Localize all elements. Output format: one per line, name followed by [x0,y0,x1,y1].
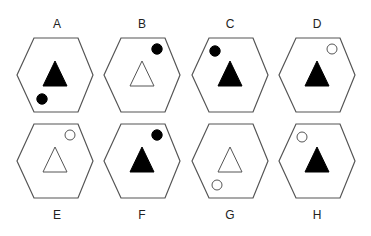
option-label: E [47,208,67,222]
option-b [104,38,180,112]
option-label: D [307,17,327,31]
filled-triangle-icon [305,61,329,86]
filled-circle-icon [152,130,162,140]
option-g [192,124,268,198]
option-e [17,124,93,198]
option-h [279,124,355,198]
filled-circle-icon [210,46,220,56]
option-label: F [132,208,152,222]
outline-circle-icon [327,44,337,54]
filled-circle-icon [37,94,47,104]
filled-circle-icon [152,44,162,54]
filled-triangle-icon [43,61,67,86]
outline-circle-icon [65,130,75,140]
outline-triangle-icon [130,61,154,86]
outline-circle-icon [297,132,307,142]
hexagon-options-figure [0,0,371,236]
option-label: G [220,208,240,222]
option-label: A [47,17,67,31]
filled-triangle-icon [305,147,329,172]
option-f [104,124,180,198]
outline-triangle-icon [43,147,67,172]
outline-triangle-icon [218,147,242,172]
option-d [279,38,355,112]
option-label: B [132,17,152,31]
option-label: C [220,17,240,31]
filled-triangle-icon [218,61,242,86]
filled-triangle-icon [130,147,154,172]
option-a [17,38,93,112]
option-label: H [307,208,327,222]
outline-circle-icon [212,180,222,190]
option-c [192,38,268,112]
